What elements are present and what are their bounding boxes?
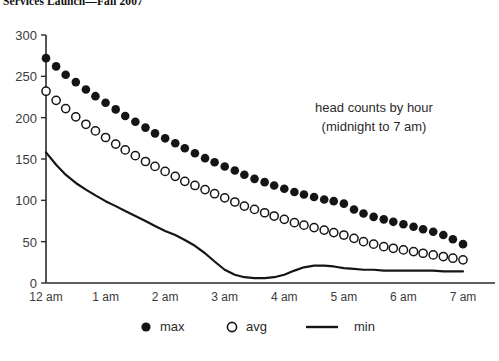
series-avg-point — [270, 212, 278, 220]
series-max-point — [329, 197, 338, 206]
series-avg-point — [210, 190, 218, 198]
y-tick-label: 0 — [30, 276, 37, 291]
series-avg-point — [141, 157, 149, 165]
series-max-point — [52, 62, 61, 71]
x-tick-label: 3 am — [211, 290, 238, 304]
series-max-point — [379, 215, 388, 224]
series-avg-point — [300, 221, 308, 229]
series-max-point — [141, 123, 150, 132]
series-avg-point — [112, 140, 120, 148]
legend-label-avg: avg — [246, 319, 267, 334]
series-max-point — [181, 144, 190, 153]
chart-svg: 05010015020025030012 am1 am2 am3 am4 am5… — [0, 0, 499, 361]
series-avg-point — [409, 247, 417, 255]
series-max-point — [280, 184, 289, 193]
series-avg-point — [429, 251, 437, 259]
x-tick-label: 7 am — [450, 290, 477, 304]
series-max-point — [270, 181, 279, 190]
series-avg-point — [320, 226, 328, 234]
chart-container: Services Launch—Fall 2007 05010015020025… — [0, 0, 499, 361]
series-avg-point — [52, 96, 60, 104]
series-max-point — [111, 105, 120, 114]
series-max-point — [320, 195, 329, 204]
y-tick-label: 50 — [23, 235, 37, 250]
series-avg-point — [340, 231, 348, 239]
y-tick-label: 200 — [15, 111, 37, 126]
series-max-point — [300, 190, 309, 199]
series-max-point — [121, 112, 130, 121]
series-avg-point — [459, 256, 467, 264]
series-avg-point — [201, 185, 209, 193]
series-avg-point — [359, 238, 367, 246]
series-avg-point — [280, 215, 288, 223]
x-tick-label: 6 am — [390, 290, 417, 304]
series-max-point — [389, 218, 398, 227]
series-avg-point — [181, 177, 189, 185]
x-tick-label: 4 am — [271, 290, 298, 304]
series-avg-point — [161, 167, 169, 175]
series-max-point — [350, 205, 359, 214]
series-avg-point — [62, 104, 70, 112]
series-avg-point — [290, 219, 298, 227]
legend-marker-max — [141, 322, 150, 331]
series-max-point — [439, 231, 448, 240]
series-avg-point — [370, 240, 378, 248]
series-avg-point — [380, 243, 388, 251]
series-max-point — [310, 193, 319, 202]
series-max-point — [409, 222, 418, 231]
series-avg-point — [419, 249, 427, 257]
series-avg-point — [42, 87, 50, 95]
x-tick-label: 5 am — [331, 290, 358, 304]
series-avg-point — [449, 254, 457, 262]
x-tick-label: 2 am — [152, 290, 179, 304]
y-tick-label: 100 — [15, 193, 37, 208]
series-avg-point — [439, 252, 447, 260]
series-avg-point — [231, 198, 239, 206]
x-tick-label: 12 am — [29, 290, 62, 304]
y-tick-label: 300 — [15, 28, 37, 43]
series-max-point — [71, 78, 80, 87]
series-avg-point — [389, 244, 397, 252]
series-avg-point — [330, 228, 338, 236]
series-avg-point — [91, 127, 99, 135]
legend-label-max: max — [160, 319, 185, 334]
series-max-point — [399, 220, 408, 229]
series-max-point — [359, 209, 368, 218]
series-max-point — [231, 166, 240, 175]
y-tick-label: 150 — [15, 152, 37, 167]
annotation-line-1: head counts by hour — [315, 100, 433, 115]
series-avg-point — [72, 113, 80, 121]
y-tick-label: 250 — [15, 69, 37, 84]
series-max-point — [290, 188, 299, 197]
series-avg-point — [171, 172, 179, 180]
series-avg-point — [240, 202, 248, 210]
series-avg-point — [250, 205, 258, 213]
legend-marker-avg — [227, 322, 236, 331]
series-avg-point — [221, 194, 229, 202]
series-avg-point — [310, 224, 318, 232]
series-max-point — [82, 85, 91, 94]
legend-label-min: min — [354, 319, 375, 334]
series-max-point — [101, 98, 110, 107]
series-max-point — [449, 235, 458, 244]
series-max-point — [250, 175, 259, 184]
series-max-point — [191, 149, 200, 158]
series-max-point — [260, 178, 269, 187]
plot-area: 05010015020025030012 am1 am2 am3 am4 am5… — [15, 28, 495, 334]
series-avg-point — [350, 234, 358, 242]
series-max-point — [42, 54, 51, 63]
series-avg-point — [151, 162, 159, 170]
series-max-point — [340, 199, 349, 208]
series-avg-point — [399, 246, 407, 254]
series-max-point — [201, 154, 210, 163]
series-avg-point — [121, 146, 129, 154]
series-max-point — [429, 227, 438, 236]
series-max-point — [459, 240, 468, 249]
annotation-line-2: (midnight to 7 am) — [322, 119, 427, 134]
series-max-point — [171, 139, 180, 148]
series-max-point — [151, 129, 160, 138]
series-avg-point — [261, 209, 269, 217]
series-max-point — [210, 158, 219, 167]
series-max-point — [91, 92, 100, 101]
series-max-point — [220, 162, 229, 171]
